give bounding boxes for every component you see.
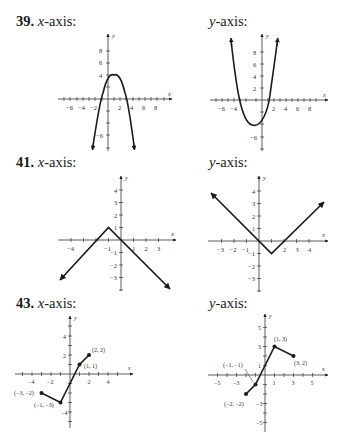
svg-text:−4: −4 — [28, 379, 34, 385]
svg-text:3: 3 — [252, 200, 255, 207]
svg-text:x: x — [170, 230, 174, 237]
svg-text:1: 1 — [114, 224, 117, 231]
svg-text:−4: −4 — [78, 104, 86, 111]
svg-text:x: x — [127, 365, 131, 371]
svg-text:x: x — [167, 90, 171, 97]
svg-text:(−1, −3): (−1, −3) — [34, 402, 54, 409]
svg-text:1: 1 — [273, 380, 276, 386]
graphs-canvas: −6−4−2 2468 864 −6 yx −6−4 — [0, 0, 345, 437]
svg-text:4: 4 — [252, 188, 256, 195]
chart-43-y: −5−3 135 531 −3−5 yx (−1, −1) (−2, −2) (… — [208, 313, 328, 432]
svg-text:4: 4 — [63, 334, 66, 340]
svg-text:(1, 1): (1, 1) — [84, 363, 97, 370]
svg-text:−4: −4 — [230, 105, 238, 112]
svg-text:−3: −3 — [248, 275, 255, 282]
svg-text:2: 2 — [145, 245, 148, 252]
svg-text:5: 5 — [258, 325, 261, 331]
svg-text:5: 5 — [311, 380, 314, 386]
svg-text:(−3, −2): (−3, −2) — [14, 390, 34, 397]
svg-text:(3, 2): (3, 2) — [294, 360, 307, 367]
svg-text:y: y — [268, 313, 272, 319]
svg-text:y: y — [262, 174, 266, 181]
svg-text:2: 2 — [252, 213, 255, 220]
svg-text:x: x — [321, 231, 325, 238]
svg-text:−3: −3 — [110, 274, 117, 281]
svg-text:−2: −2 — [110, 262, 117, 269]
svg-text:−2: −2 — [248, 263, 255, 270]
svg-text:1: 1 — [252, 225, 255, 232]
svg-text:−1: −1 — [110, 249, 117, 256]
svg-text:6: 6 — [142, 104, 146, 111]
svg-text:2: 2 — [272, 105, 275, 112]
svg-text:2: 2 — [253, 85, 256, 92]
svg-text:−6: −6 — [250, 134, 258, 141]
svg-text:4: 4 — [99, 72, 103, 79]
svg-text:−2: −2 — [90, 104, 97, 111]
svg-text:−5: −5 — [214, 380, 220, 386]
svg-text:8: 8 — [253, 49, 256, 56]
svg-text:2: 2 — [114, 212, 117, 219]
svg-text:6: 6 — [253, 61, 257, 68]
chart-43-x: −4−2 24 42−4 yx (−3, −2) (−1, −3) (1, 1)… — [14, 315, 133, 428]
svg-text:1: 1 — [258, 363, 261, 369]
svg-text:4: 4 — [114, 187, 118, 194]
svg-text:8: 8 — [99, 47, 102, 54]
svg-text:3: 3 — [292, 380, 295, 386]
svg-text:y: y — [124, 174, 128, 181]
svg-text:−2: −2 — [47, 379, 53, 385]
svg-text:−5: −5 — [256, 420, 262, 426]
svg-text:3: 3 — [114, 199, 117, 206]
svg-text:−4: −4 — [61, 410, 67, 416]
svg-text:(1, 3): (1, 3) — [274, 336, 287, 343]
chart-41-x: −4−1 123 4321 −1−2−3 yx — [58, 174, 176, 291]
svg-text:4: 4 — [284, 105, 288, 112]
svg-text:−3: −3 — [233, 380, 239, 386]
chart-41-y: −3−2−1 234 4321 −1−2−3 yx — [208, 174, 328, 292]
svg-text:−3: −3 — [256, 401, 262, 407]
svg-text:y: y — [73, 315, 77, 321]
svg-text:(−2, −2): (−2, −2) — [224, 401, 244, 408]
svg-text:3: 3 — [296, 246, 299, 253]
svg-text:3: 3 — [157, 245, 160, 252]
svg-text:4: 4 — [308, 246, 312, 253]
chart-39-y: −6−4 2468 8642 −6 yx — [210, 32, 328, 151]
svg-text:(−1, −1): (−1, −1) — [223, 362, 243, 369]
svg-text:−6: −6 — [218, 105, 226, 112]
svg-text:x: x — [322, 91, 326, 98]
svg-text:2: 2 — [63, 353, 66, 359]
svg-text:−3: −3 — [217, 246, 224, 253]
svg-text:−6: −6 — [66, 104, 74, 111]
svg-text:2: 2 — [118, 104, 121, 111]
svg-text:−4: −4 — [67, 245, 75, 252]
svg-text:3: 3 — [258, 344, 261, 350]
svg-text:x: x — [321, 366, 325, 372]
svg-text:y: y — [265, 32, 269, 39]
svg-text:−6: −6 — [96, 132, 104, 139]
svg-text:−1: −1 — [248, 250, 255, 257]
svg-text:8: 8 — [154, 104, 157, 111]
svg-text:4: 4 — [107, 379, 110, 385]
svg-text:(2, 2): (2, 2) — [92, 347, 105, 354]
svg-text:−2: −2 — [230, 246, 237, 253]
svg-text:2: 2 — [283, 246, 286, 253]
svg-text:4: 4 — [130, 104, 134, 111]
svg-text:2: 2 — [88, 379, 91, 385]
svg-text:y: y — [111, 32, 115, 39]
svg-text:6: 6 — [296, 105, 300, 112]
svg-text:8: 8 — [308, 105, 311, 112]
svg-text:6: 6 — [99, 59, 103, 66]
chart-39-x: −6−4−2 2468 864 −6 yx — [58, 32, 172, 151]
svg-text:4: 4 — [253, 73, 257, 80]
